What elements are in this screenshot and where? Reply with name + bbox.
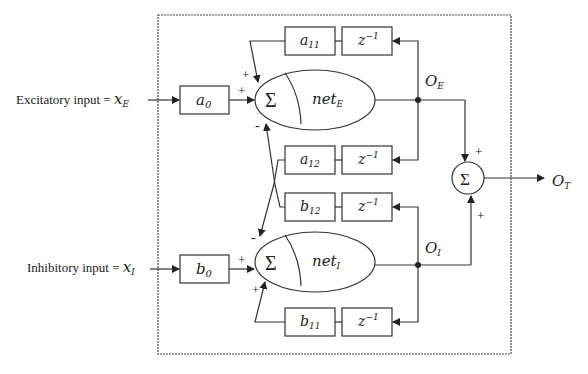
sigma-symbol: Σ bbox=[265, 89, 277, 111]
output-summer: Σ + + bbox=[452, 144, 484, 223]
svg-text:netI: netI bbox=[312, 252, 341, 271]
gain-block-b0: b0 bbox=[180, 255, 229, 283]
diagram-canvas: Excitatory input = xE a0 + Σ netE a11 z−… bbox=[0, 0, 588, 374]
svg-text:+: + bbox=[252, 282, 259, 297]
svg-text:+: + bbox=[477, 208, 484, 223]
OE-label: OE bbox=[425, 72, 444, 91]
svg-text:+: + bbox=[475, 144, 482, 159]
plus-sign: + bbox=[238, 83, 245, 98]
excitatory-input-label: Excitatory input = xE bbox=[16, 90, 129, 109]
OT-label: OT bbox=[552, 172, 571, 191]
plus-sign: + bbox=[238, 252, 245, 267]
minus-sign: - bbox=[255, 118, 260, 133]
inhibitory-summer-netI: Σ netI bbox=[255, 232, 375, 292]
excitatory-summer-netE: Σ netE bbox=[255, 70, 375, 130]
svg-text:+: + bbox=[242, 67, 249, 82]
svg-text:Σ: Σ bbox=[460, 170, 470, 189]
OI-label: OI bbox=[425, 239, 441, 258]
gain-block-a0: a0 bbox=[180, 86, 229, 114]
minus-sign: - bbox=[251, 230, 256, 245]
svg-text:Σ: Σ bbox=[265, 252, 277, 274]
inhibitory-input-label: Inhibitory input = xI bbox=[27, 258, 135, 277]
